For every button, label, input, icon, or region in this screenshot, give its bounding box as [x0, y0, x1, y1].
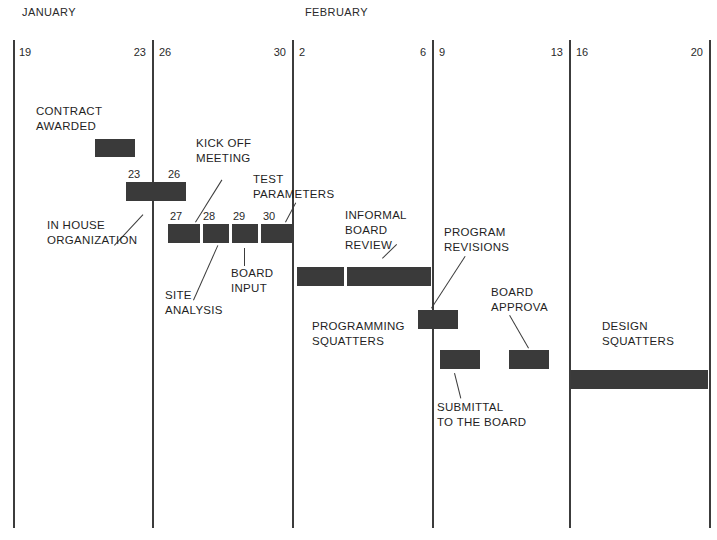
- day-tick-20: 20: [671, 46, 703, 58]
- task-bar-submittal-to-the-board: [440, 350, 480, 369]
- leader-line-test-parameters: [285, 203, 296, 223]
- task-bar-board-input: [232, 224, 258, 243]
- task-bar-kick-off-meeting: [168, 224, 200, 243]
- bar-daynum-30: 30: [263, 210, 275, 222]
- day-tick-16: 16: [576, 46, 588, 58]
- task-bar-in-house-organization: [126, 182, 186, 201]
- day-tick-6: 6: [394, 46, 426, 58]
- leader-line-board-approval: [509, 315, 529, 348]
- task-bar-board-approval: [509, 350, 549, 369]
- gantt-chart: JANUARY FEBRUARY 19 23 26 30 2 6 9 13 16…: [0, 0, 717, 540]
- task-bar-program-revisions: [418, 310, 458, 329]
- day-tick-23: 23: [114, 46, 146, 58]
- task-label-programming-squatters: PROGRAMMING SQUATTERS: [312, 319, 405, 349]
- task-bar-test-parameters: [261, 224, 294, 243]
- bar-daynum-26: 26: [168, 168, 180, 180]
- leader-line-program-revisions: [431, 256, 466, 309]
- bar-daynum-29: 29: [233, 210, 245, 222]
- day-tick-2: 2: [299, 46, 305, 58]
- chart-left-edge: [13, 40, 15, 528]
- week-divider-3: [432, 40, 434, 528]
- day-tick-30: 30: [254, 46, 286, 58]
- task-bar-programming-squatters: [297, 267, 344, 286]
- task-label-board-approval: BOARD APPROVA: [491, 285, 548, 315]
- month-label-february: FEBRUARY: [305, 6, 368, 18]
- week-divider-1: [152, 40, 154, 528]
- task-bar-design-squatters: [571, 370, 708, 389]
- bar-daynum-28: 28: [203, 210, 215, 222]
- task-label-submittal-to-the-board: SUBMITTAL TO THE BOARD: [437, 400, 526, 430]
- week-divider-4: [569, 40, 571, 528]
- task-label-site-analysis: SITE ANALYSIS: [165, 288, 223, 318]
- leader-line-board-input: [244, 248, 245, 266]
- task-label-design-squatters: DESIGN SQUATTERS: [602, 319, 674, 349]
- day-tick-13: 13: [531, 46, 563, 58]
- chart-right-edge: [709, 40, 711, 528]
- task-bar-contract-awarded: [95, 139, 135, 157]
- leader-line-submittal-to-the-board: [454, 373, 461, 398]
- day-tick-26: 26: [159, 46, 171, 58]
- bar-daynum-27: 27: [170, 210, 182, 222]
- day-tick-19: 19: [19, 46, 31, 58]
- task-label-test-parameters: TEST PARAMETERS: [253, 172, 334, 202]
- task-bar-site-analysis: [203, 224, 229, 243]
- week-divider-2: [292, 40, 294, 528]
- task-label-kick-off-meeting: KICK OFF MEETING: [196, 136, 251, 166]
- bar-daynum-23: 23: [128, 168, 140, 180]
- day-tick-9: 9: [439, 46, 445, 58]
- month-label-january: JANUARY: [22, 6, 76, 18]
- task-label-in-house-organization: IN HOUSE ORGANIZATION: [47, 218, 137, 248]
- task-label-program-revisions: PROGRAM REVISIONS: [444, 225, 509, 255]
- task-bar-informal-board-review: [347, 267, 431, 286]
- task-label-board-input: BOARD INPUT: [231, 266, 273, 296]
- task-label-contract-awarded: CONTRACT AWARDED: [36, 104, 102, 134]
- task-label-informal-board-review: INFORMAL BOARD REVIEW: [345, 208, 407, 253]
